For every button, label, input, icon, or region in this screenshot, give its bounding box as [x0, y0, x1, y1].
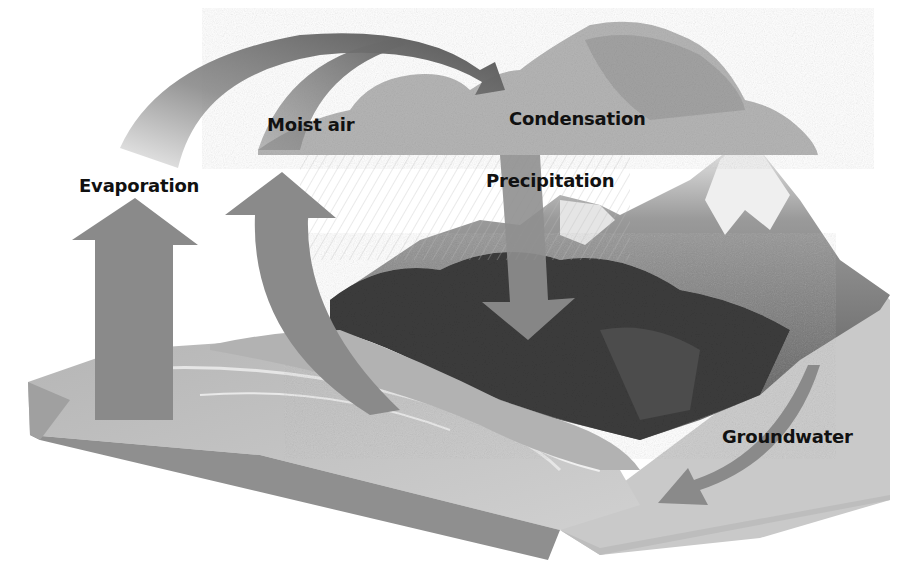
label-precipitation: Precipitation [486, 170, 614, 191]
label-condensation: Condensation [509, 108, 646, 129]
water-cycle-diagram: Evaporation Moist air Condensation Preci… [0, 0, 909, 587]
label-moist-air: Moist air [267, 114, 354, 135]
label-groundwater: Groundwater [722, 426, 853, 447]
diagram-canvas [0, 0, 909, 587]
rain-streaks [300, 150, 630, 260]
label-evaporation: Evaporation [79, 175, 199, 196]
